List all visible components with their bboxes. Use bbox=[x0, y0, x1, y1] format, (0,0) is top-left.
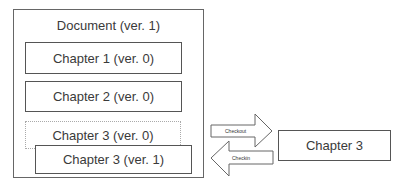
external-chapter-3-box: Chapter 3 bbox=[278, 130, 391, 161]
external-chapter-3-label: Chapter 3 bbox=[306, 138, 363, 153]
checkin-label: Checkin bbox=[232, 155, 250, 161]
checkout-label: Checkout bbox=[225, 128, 246, 134]
arrows-layer bbox=[0, 0, 401, 190]
